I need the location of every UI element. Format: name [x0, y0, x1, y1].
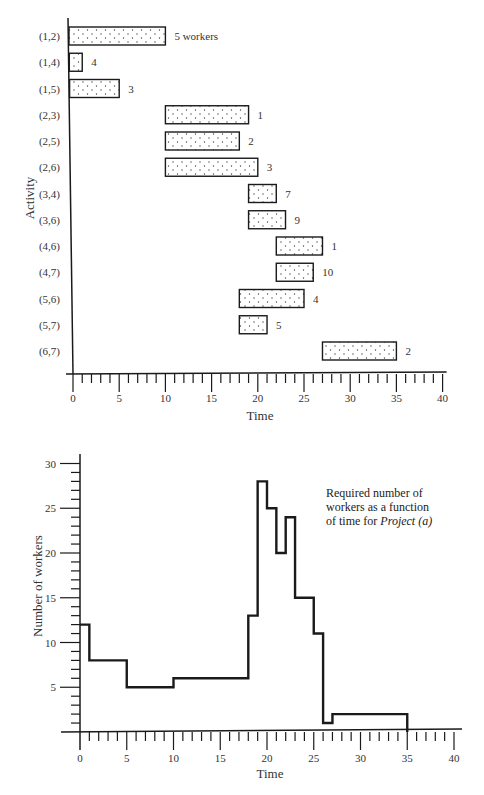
worker-count-label: 3: [128, 83, 134, 95]
top-x-tick-label: 35: [391, 392, 403, 404]
activity-label: (5,7): [39, 319, 60, 332]
activity-label: (4,7): [39, 266, 60, 279]
top-x-tick-label: 15: [206, 392, 218, 404]
top-y-axis-label: Activity: [22, 176, 37, 219]
annotation-line-3: of time for Project (a): [326, 514, 476, 528]
activity-bar: [322, 342, 396, 360]
activity-label: (4,6): [39, 240, 60, 253]
top-x-tick-label: 40: [437, 392, 449, 404]
worker-count-label: 2: [405, 345, 411, 357]
activity-bar: [69, 27, 165, 45]
annotation-text: of time for: [326, 514, 377, 528]
activity-label: (3,6): [39, 214, 60, 227]
bottom-y-tick-label: 20: [45, 547, 57, 559]
activity-bar: [276, 237, 322, 255]
bottom-x-tick-label: 20: [262, 752, 274, 764]
worker-count-label: 7: [285, 188, 291, 200]
activity-bar: [239, 316, 267, 334]
bottom-y-axis-label: Number of workers: [30, 535, 45, 637]
worker-count-label: 3: [267, 161, 273, 173]
bottom-y-tick-label: 10: [45, 637, 57, 649]
top-x-axis-label: Time: [247, 408, 274, 423]
activity-bar: [165, 132, 239, 150]
top-x-tick-label: 0: [70, 392, 76, 404]
activity-bar: [249, 185, 277, 203]
activity-label: (1,2): [39, 30, 60, 43]
bottom-x-tick-label: 15: [215, 752, 227, 764]
activity-bar: [239, 290, 304, 308]
activity-label: (3,4): [39, 188, 60, 201]
annotation-line-1: Required number of: [326, 486, 476, 500]
worker-count-label: 4: [313, 293, 319, 305]
worker-count-label: 5 workers: [174, 30, 218, 42]
activity-bar: [70, 80, 120, 98]
worker-count-label: 1: [331, 240, 337, 252]
charts-canvas: 0510152025303540(1,2)5 workers(1,4)4(1,5…: [0, 0, 484, 795]
activity-bar: [165, 158, 257, 176]
top-x-tick-label: 20: [252, 392, 264, 404]
activity-label: (2,3): [39, 109, 60, 122]
activity-bar: [276, 263, 313, 281]
worker-count-label: 4: [91, 56, 97, 68]
worker-count-label: 9: [295, 214, 301, 226]
top-x-tick-label: 25: [299, 392, 311, 404]
activity-bar: [69, 53, 82, 71]
worker-count-label: 1: [258, 109, 264, 121]
worker-count-label: 10: [322, 266, 334, 278]
bottom-x-tick-label: 0: [77, 752, 83, 764]
bottom-x-tick-label: 25: [308, 752, 320, 764]
bottom-x-axis-label: Time: [257, 766, 284, 781]
activity-label: (5,6): [39, 293, 60, 306]
activity-label: (1,5): [39, 83, 60, 96]
bottom-x-tick-label: 10: [168, 752, 180, 764]
bottom-x-tick-label: 40: [449, 752, 461, 764]
activity-bar: [165, 106, 248, 124]
activity-label: (2,6): [39, 161, 60, 174]
bottom-x-axis: [61, 729, 462, 732]
worker-count-label: 5: [276, 319, 282, 331]
bottom-y-tick-label: 15: [45, 592, 57, 604]
top-x-tick-label: 5: [116, 392, 122, 404]
activity-label: (6,7): [39, 345, 60, 358]
bottom-y-tick-label: 30: [45, 458, 57, 470]
bottom-y-tick-label: 5: [51, 681, 57, 693]
top-x-axis: [66, 372, 447, 374]
top-x-tick-label: 30: [345, 392, 357, 404]
bottom-x-tick-label: 30: [355, 752, 367, 764]
bottom-x-tick-label: 5: [124, 752, 130, 764]
activity-label: (2,5): [39, 135, 60, 148]
activity-bar: [249, 211, 286, 229]
worker-count-label: 2: [248, 135, 254, 147]
chart-annotation: Required number of workers as a function…: [326, 486, 476, 528]
top-x-tick-label: 10: [160, 392, 172, 404]
annotation-line-2: workers as a function: [326, 500, 476, 514]
activity-label: (1,4): [39, 56, 60, 69]
bottom-y-tick-label: 25: [45, 502, 57, 514]
bottom-x-tick-label: 35: [402, 752, 414, 764]
annotation-project-name: Project (a): [380, 514, 432, 528]
activity-gantt-chart: 0510152025303540(1,2)5 workers(1,4)4(1,5…: [39, 18, 449, 404]
